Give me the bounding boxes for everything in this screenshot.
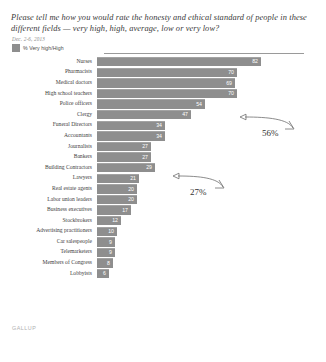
bar-row: Police officers54 — [0, 98, 326, 109]
bar-row-label: Accountants — [0, 132, 97, 139]
bar-row: Lobbyists6 — [0, 268, 326, 279]
bar-value-label: 12 — [112, 216, 121, 224]
legend-label: % Very high/High — [23, 45, 64, 51]
bar-row-label: Clergy — [0, 111, 97, 118]
bar-value-label: 9 — [109, 238, 115, 246]
bar-value-label: 21 — [130, 174, 139, 182]
bar-row-label: High school teachers — [0, 90, 97, 97]
bar-row-label: Nurses — [0, 58, 97, 65]
bar-track: 20 — [97, 195, 326, 203]
bar-row: Medical doctors69 — [0, 77, 326, 88]
bar-track: 9 — [97, 248, 326, 256]
bar-row: Business executives17 — [0, 204, 326, 215]
bar-value-label: 82 — [252, 57, 261, 65]
bar-row-label: Police officers — [0, 100, 97, 107]
bar-row: Real estate agents20 — [0, 183, 326, 194]
bar-value-label: 54 — [196, 100, 205, 108]
bar — [97, 131, 165, 140]
bar-row-label: Advertising practitioners — [0, 227, 97, 234]
bar-value-label: 34 — [156, 132, 165, 140]
bar-row-label: Real estate agents — [0, 185, 97, 192]
bar-value-label: 20 — [128, 185, 137, 193]
bar-row-label: Telemarketers — [0, 248, 97, 255]
bar-row: Advertising practitioners10 — [0, 226, 326, 237]
bar-track: 12 — [97, 216, 326, 224]
bar — [97, 89, 237, 98]
bar-value-label: 69 — [226, 79, 235, 87]
annotation-police-label: 56% — [262, 128, 279, 138]
annotation-journalists-label: 27% — [190, 187, 207, 197]
bar-row: Telemarketers9 — [0, 247, 326, 258]
bar-plot: Nurses82Pharmacists70Medical doctors69Hi… — [0, 56, 326, 278]
bar-row-label: Journalists — [0, 143, 97, 150]
bar-row-label: Medical doctors — [0, 79, 97, 86]
bar-track: 27 — [97, 142, 326, 150]
bar-value-label: 34 — [156, 121, 165, 129]
bar-row-label: Lobbyists — [0, 270, 97, 277]
gallup-logo: GALLUP — [12, 325, 36, 331]
bar-value-label: 20 — [128, 195, 137, 203]
bar-value-label: 70 — [228, 68, 237, 76]
bar-value-label: 9 — [109, 248, 115, 256]
bar-track: 6 — [97, 269, 326, 277]
bar — [97, 68, 237, 77]
bar — [97, 78, 235, 87]
bar-value-label: 27 — [142, 142, 151, 150]
page-title: Please tell me how you would rate the ho… — [11, 12, 311, 34]
bar-track: 27 — [97, 152, 326, 160]
bar-row-label: Stockbrokers — [0, 217, 97, 224]
bar-value-label: 17 — [122, 206, 131, 214]
bar-row-label: Lawyers — [0, 174, 97, 181]
bar — [97, 110, 191, 119]
bar-row: High school teachers70 — [0, 88, 326, 99]
bar-track: 29 — [97, 163, 326, 171]
gallup-ethics-chart: Please tell me how you would rate the ho… — [0, 0, 326, 362]
bar-track: 70 — [97, 89, 326, 97]
date-range: Dec. 2-6, 2013 — [12, 36, 45, 42]
bar-row: Labor union leaders20 — [0, 194, 326, 205]
bar-track: 34 — [97, 131, 326, 139]
bar-track: 8 — [97, 258, 326, 266]
bar-row: Members of Congress8 — [0, 257, 326, 268]
bar — [97, 57, 261, 66]
bar-row-label: Members of Congress — [0, 259, 97, 266]
plot-top-rule — [104, 53, 304, 54]
bar-value-label: 47 — [182, 110, 191, 118]
bar-row: Car salespeople9 — [0, 236, 326, 247]
bar-row-label: Building Contractors — [0, 164, 97, 171]
bar-track: 54 — [97, 99, 326, 107]
bar-value-label: 6 — [103, 269, 109, 277]
bar-row: Stockbrokers12 — [0, 215, 326, 226]
bar-row-label: Funeral Directors — [0, 121, 97, 128]
bar-track: 10 — [97, 227, 326, 235]
bar-row-label: Labor union leaders — [0, 196, 97, 203]
bar-track: 82 — [97, 57, 326, 65]
bar-row-label: Business executives — [0, 206, 97, 213]
bar-row: Building Contractors29 — [0, 162, 326, 173]
bar-track: 34 — [97, 121, 326, 129]
bar-track: 47 — [97, 110, 326, 118]
legend-swatch-icon — [12, 44, 20, 52]
bar-row: Clergy47 — [0, 109, 326, 120]
legend: % Very high/High — [12, 44, 64, 52]
bar-row-label: Car salespeople — [0, 238, 97, 245]
bar — [97, 99, 205, 108]
bar-track: 9 — [97, 237, 326, 245]
bar-track: 20 — [97, 184, 326, 192]
bar — [97, 121, 165, 130]
bar-track: 21 — [97, 174, 326, 182]
bar-row: Lawyers21 — [0, 173, 326, 184]
bar-track: 70 — [97, 68, 326, 76]
bar-row: Nurses82 — [0, 56, 326, 67]
bar-row-label: Pharmacists — [0, 68, 97, 75]
bar-value-label: 29 — [146, 163, 155, 171]
bar-value-label: 8 — [107, 259, 113, 267]
bar-value-label: 10 — [108, 227, 117, 235]
bar-track: 17 — [97, 205, 326, 213]
bar-row: Pharmacists70 — [0, 67, 326, 78]
bar-value-label: 27 — [142, 153, 151, 161]
bar-track: 69 — [97, 78, 326, 86]
bar-value-label: 70 — [228, 89, 237, 97]
bar-row-label: Bankers — [0, 153, 97, 160]
bar-row: Bankers27 — [0, 151, 326, 162]
